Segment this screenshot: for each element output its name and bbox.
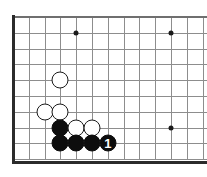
grid-line-horizontal	[13, 64, 207, 65]
grid-line-vertical	[171, 17, 172, 159]
grid-line-horizontal	[13, 80, 207, 81]
star-point	[74, 30, 79, 35]
stone-black	[68, 135, 85, 152]
go-board-diagram: 1	[0, 0, 207, 177]
grid-line-horizontal	[13, 96, 207, 97]
stone-black	[52, 135, 69, 152]
stone-white	[84, 119, 101, 136]
stone-black	[84, 135, 101, 152]
stone-black-move-1: 1	[99, 135, 116, 152]
stone-white	[68, 119, 85, 136]
stone-white	[52, 103, 69, 120]
stone-white	[52, 72, 69, 89]
board-edge-top	[13, 16, 207, 18]
grid-line-horizontal	[13, 128, 207, 129]
grid-line-vertical	[155, 17, 156, 159]
stone-black	[52, 119, 69, 136]
star-point	[169, 125, 174, 130]
grid-line-vertical	[45, 17, 46, 159]
board-edge-bottom	[12, 161, 207, 164]
stone-white	[36, 103, 53, 120]
grid-line-horizontal	[13, 49, 207, 50]
move-number-label: 1	[100, 136, 115, 151]
grid-line-horizontal	[13, 33, 207, 34]
grid-line-vertical	[29, 17, 30, 159]
grid-line-vertical	[124, 17, 125, 159]
grid-line-vertical	[139, 17, 140, 159]
star-point	[169, 30, 174, 35]
grid-line-vertical	[203, 17, 204, 159]
board-edge-left	[12, 15, 15, 164]
grid-line-vertical	[187, 17, 188, 159]
